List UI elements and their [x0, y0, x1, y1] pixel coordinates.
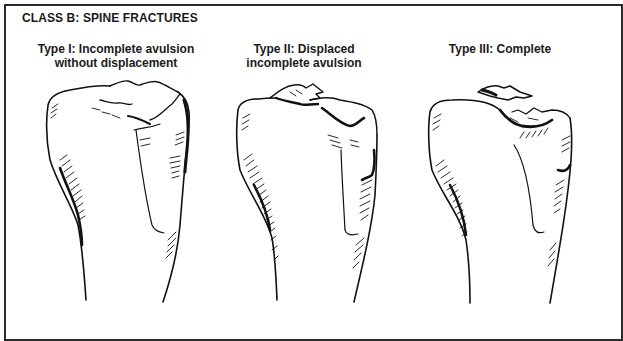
bone-illustration-type-2	[237, 84, 377, 302]
bone-illustration-type-1	[47, 81, 190, 302]
illustrations	[0, 0, 623, 341]
bone-illustration-type-3	[429, 86, 572, 303]
